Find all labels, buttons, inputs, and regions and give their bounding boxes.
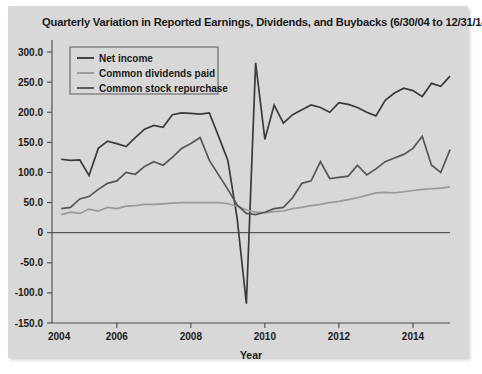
legend-label: Common dividends paid: [99, 68, 215, 79]
series-line-common-dividends-paid: [61, 187, 450, 215]
y-tick-label: 150.0: [18, 137, 43, 148]
y-tick-label: 250.0: [18, 77, 43, 88]
x-tick-label: 2014: [402, 331, 425, 342]
y-tick-label: 200.0: [18, 107, 43, 118]
x-tick-label: 2006: [106, 331, 129, 342]
series-line-net-income: [61, 63, 450, 304]
series-line-common-stock-repurchase: [61, 136, 450, 214]
y-axis-tick-group: -150.0-100.0-50.0050.0100.0150.0200.0250…: [15, 47, 52, 329]
y-tick-label: 300.0: [18, 47, 43, 58]
x-tick-label: 2012: [328, 331, 351, 342]
line-chart-svg: -150.0-100.0-50.0050.0100.0150.0200.0250…: [0, 0, 482, 374]
y-tick-label: 100.0: [18, 167, 43, 178]
y-tick-label: 50.0: [24, 197, 44, 208]
y-tick-label: 0: [37, 227, 43, 238]
y-tick-label: -50.0: [20, 257, 43, 268]
x-tick-label: 2008: [180, 331, 203, 342]
x-axis-tick-group: 200420062008201020122014: [48, 323, 425, 342]
data-series-group: [61, 63, 450, 304]
x-tick-label: 2010: [254, 331, 277, 342]
x-axis-title: Year: [240, 349, 262, 361]
legend-label: Common stock repurchase: [99, 83, 228, 94]
x-tick-label: 2004: [48, 331, 71, 342]
legend-label: Net income: [99, 53, 153, 64]
figure-canvas: Quarterly Variation in Reported Earnings…: [0, 0, 482, 374]
y-tick-label: -150.0: [15, 318, 44, 329]
y-tick-label: -100.0: [15, 287, 44, 298]
chart-legend: Net incomeCommon dividends paidCommon st…: [70, 47, 228, 94]
plot-area-wrapper: -150.0-100.0-50.0050.0100.0150.0200.0250…: [0, 0, 482, 374]
